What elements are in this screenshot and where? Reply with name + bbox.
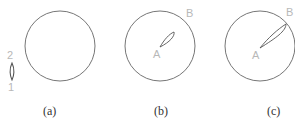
point-b-label-b: B	[186, 7, 193, 19]
circle-c	[225, 11, 295, 81]
point-b-label-c: B	[286, 6, 293, 18]
point-a-label-c: A	[252, 49, 260, 61]
lobe-legend-icon	[10, 63, 14, 80]
diagram-canvas: 2 1 (a) A B (b) A B (c)	[0, 0, 295, 131]
panel-a: 2 1 (a)	[7, 11, 95, 118]
circle-b	[125, 11, 195, 81]
caption-a: (a)	[43, 104, 56, 118]
caption-b: (b)	[154, 104, 168, 118]
lobe-c-icon	[260, 24, 286, 48]
lobe-label-2: 2	[7, 49, 13, 61]
caption-c: (c)	[267, 104, 280, 118]
lobe-label-1: 1	[8, 81, 14, 93]
lobe-b-icon	[160, 32, 174, 47]
circle-a	[25, 11, 95, 81]
panel-b: A B (b)	[125, 7, 195, 118]
panel-c: A B (c)	[225, 6, 295, 118]
point-a-label-b: A	[153, 48, 161, 60]
